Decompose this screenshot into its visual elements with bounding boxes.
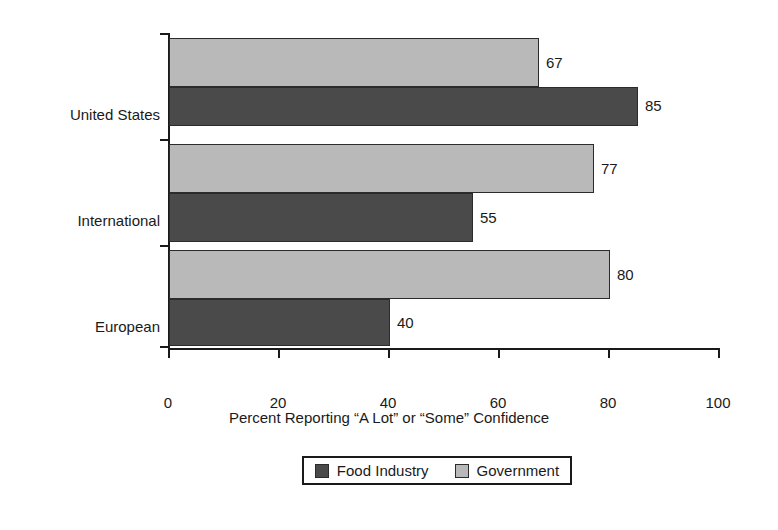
x-axis-title: Percent Reporting “A Lot” or “Some” Conf… [0, 410, 778, 425]
bar-value-food-industry-united-states: 85 [645, 98, 662, 113]
x-axis-tick [388, 350, 390, 358]
chart-legend: Food Industry Government [302, 456, 572, 485]
category-label-european: European [95, 319, 160, 334]
bar-chart: United States International European 67 … [0, 0, 778, 530]
legend-swatch-icon-government [455, 464, 469, 478]
legend-entry-government: Government [455, 463, 560, 478]
bar-value-food-industry-european: 40 [397, 315, 414, 330]
category-label-united-states: United States [70, 107, 160, 122]
legend-label-food-industry: Food Industry [337, 463, 429, 478]
x-axis-tick [608, 350, 610, 358]
bar-government-united-states [169, 38, 539, 87]
x-axis-tick [168, 350, 170, 358]
y-axis-tick [160, 245, 168, 247]
plot-area: 67 85 77 55 80 40 0 20 40 60 80 100 [168, 33, 720, 348]
legend-swatch-icon-food-industry [315, 464, 329, 478]
legend-entry-food-industry: Food Industry [315, 463, 429, 478]
x-axis-tick-label: 20 [270, 395, 287, 410]
bar-value-government-international: 77 [601, 161, 618, 176]
bar-food-industry-international [169, 193, 473, 242]
bar-value-government-european: 80 [617, 267, 634, 282]
bar-value-food-industry-international: 55 [480, 210, 497, 225]
x-axis-tick [718, 350, 720, 358]
x-axis-tick [278, 350, 280, 358]
x-axis-tick-label: 80 [600, 395, 617, 410]
category-label-international: International [77, 213, 160, 228]
y-axis-category-labels: United States International European [0, 33, 160, 348]
bar-food-industry-european [169, 299, 390, 346]
x-axis-tick-label: 100 [705, 395, 730, 410]
bar-government-european [169, 250, 610, 299]
x-axis-tick [498, 350, 500, 358]
y-axis-tick [160, 346, 168, 348]
bar-government-international [169, 144, 594, 193]
bar-value-government-united-states: 67 [546, 55, 563, 70]
legend-label-government: Government [477, 463, 560, 478]
x-axis-line [168, 348, 720, 350]
bar-food-industry-united-states [169, 87, 638, 126]
x-axis-tick-label: 40 [380, 395, 397, 410]
y-axis-tick [160, 33, 168, 35]
y-axis-tick [160, 139, 168, 141]
x-axis-tick-label: 60 [490, 395, 507, 410]
x-axis-tick-label: 0 [164, 395, 172, 410]
